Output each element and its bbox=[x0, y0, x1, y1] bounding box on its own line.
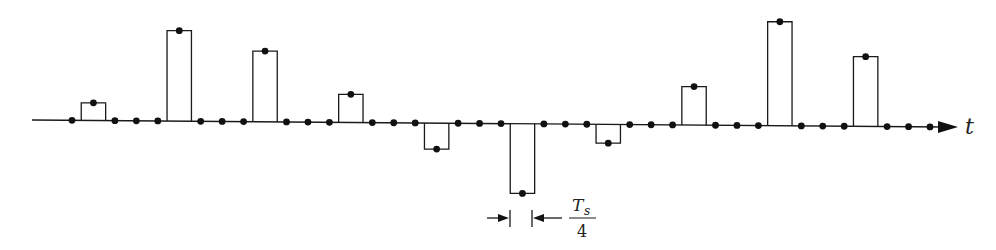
sample-dot-pulse-13 bbox=[347, 91, 354, 98]
sample-dot-4 bbox=[154, 118, 161, 125]
sample-dot-34 bbox=[798, 122, 805, 129]
pulse-17 bbox=[424, 123, 448, 149]
sample-dot-36 bbox=[841, 123, 848, 130]
sample-dot-28 bbox=[669, 122, 676, 129]
pulse-group bbox=[81, 22, 878, 194]
sample-dot-7 bbox=[219, 118, 226, 125]
sampled-signal-diagram: t T s 4 bbox=[0, 0, 996, 250]
sample-dot-pulse-33 bbox=[776, 18, 783, 25]
pulse-29 bbox=[682, 87, 706, 126]
sample-dot-group bbox=[69, 18, 934, 197]
sample-dot-pulse-9 bbox=[262, 48, 269, 55]
pulse-13 bbox=[339, 94, 363, 122]
sample-dot-31 bbox=[734, 122, 741, 129]
left-dimension-arrowhead-icon bbox=[498, 214, 509, 222]
sample-dot-24 bbox=[583, 121, 590, 128]
pulse-5 bbox=[167, 31, 191, 122]
sample-dot-10 bbox=[283, 119, 290, 126]
sample-dot-pulse-37 bbox=[862, 53, 869, 60]
sample-dot-19 bbox=[476, 120, 483, 127]
pulse-37 bbox=[853, 57, 877, 127]
sample-dot-pulse-17 bbox=[433, 146, 440, 153]
sample-dot-32 bbox=[755, 122, 762, 129]
sample-dot-30 bbox=[712, 122, 719, 129]
pulse-21 bbox=[510, 124, 534, 194]
annotation-subscript: s bbox=[584, 204, 590, 218]
sample-dot-11 bbox=[305, 119, 312, 126]
sample-dot-2 bbox=[112, 117, 119, 124]
time-axis: t bbox=[32, 114, 974, 139]
sample-dot-22 bbox=[541, 121, 548, 128]
pulse-33 bbox=[768, 22, 792, 126]
sample-dot-40 bbox=[927, 123, 934, 130]
sample-dot-pulse-21 bbox=[519, 190, 526, 197]
axis-arrowhead-icon bbox=[938, 121, 958, 133]
sample-dot-15 bbox=[390, 119, 397, 126]
pulse-width-annotation: T s 4 bbox=[487, 195, 596, 241]
sample-dot-27 bbox=[648, 121, 655, 128]
sample-dot-pulse-29 bbox=[691, 83, 698, 90]
sample-dot-12 bbox=[326, 119, 333, 126]
axis-label-t: t bbox=[965, 114, 974, 139]
sample-dot-pulse-25 bbox=[605, 140, 612, 147]
sample-dot-18 bbox=[455, 120, 462, 127]
sample-dot-38 bbox=[884, 123, 891, 130]
sample-dot-8 bbox=[240, 118, 247, 125]
annotation-denominator: 4 bbox=[577, 222, 587, 241]
sample-dot-16 bbox=[412, 120, 419, 127]
sample-dot-35 bbox=[819, 123, 826, 130]
sample-dot-pulse-1 bbox=[90, 99, 97, 106]
sample-dot-3 bbox=[133, 117, 140, 124]
sample-dot-23 bbox=[562, 121, 569, 128]
sample-dot-39 bbox=[905, 123, 912, 130]
sample-dot-26 bbox=[626, 121, 633, 128]
sample-dot-pulse-5 bbox=[176, 27, 183, 34]
sample-dot-6 bbox=[197, 118, 204, 125]
sample-dot-20 bbox=[498, 120, 505, 127]
axis-line bbox=[32, 120, 945, 127]
sample-dot-0 bbox=[69, 117, 76, 124]
pulse-9 bbox=[253, 51, 277, 122]
sample-dot-14 bbox=[369, 119, 376, 126]
